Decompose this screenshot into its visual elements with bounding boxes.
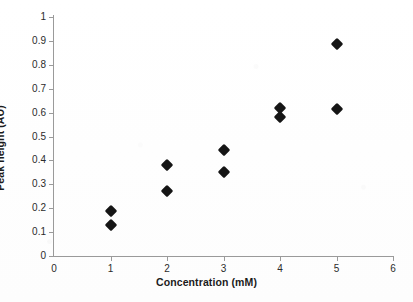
data-point [161, 185, 174, 198]
y-tick-label: 0.5 [32, 132, 46, 142]
x-tick-mark [393, 256, 394, 261]
y-tick-mark [49, 41, 54, 42]
y-tick-mark [49, 89, 54, 90]
data-point [217, 166, 230, 179]
y-tick-label: 0.4 [32, 155, 46, 165]
data-point [161, 159, 174, 172]
x-tick-label: 3 [221, 264, 227, 274]
data-point [330, 38, 343, 51]
x-tick-label: 2 [164, 264, 170, 274]
y-tick-mark [49, 17, 54, 18]
data-point [104, 204, 117, 217]
y-tick-mark [49, 160, 54, 161]
y-tick-label: 0.3 [32, 179, 46, 189]
y-tick-label: 0.6 [32, 108, 46, 118]
x-tick-mark [280, 256, 281, 261]
data-point [274, 111, 287, 124]
x-tick-label: 0 [51, 264, 57, 274]
x-tick-mark [111, 256, 112, 261]
plot-area: 00.10.20.30.40.50.60.70.80.91 0123456 [54, 17, 393, 256]
y-tick-label: 1 [40, 12, 46, 22]
y-tick-label: 0.9 [32, 36, 46, 46]
x-tick-label: 5 [334, 264, 340, 274]
y-tick-mark [49, 113, 54, 114]
x-tick-label: 6 [390, 264, 396, 274]
y-tick-mark [49, 256, 54, 257]
y-axis-line [53, 15, 54, 256]
x-axis-title: Concentration (mM) [0, 276, 413, 288]
y-tick-label: 0.2 [32, 203, 46, 213]
x-tick-label: 4 [277, 264, 283, 274]
scatter-plot-figure: 00.10.20.30.40.50.60.70.80.91 0123456 Co… [0, 0, 413, 302]
y-tick-label: 0 [40, 251, 46, 261]
y-tick-label: 0.7 [32, 84, 46, 94]
y-tick-mark [49, 65, 54, 66]
x-tick-mark [337, 256, 338, 261]
data-point [104, 219, 117, 232]
x-tick-label: 1 [108, 264, 114, 274]
data-point [217, 143, 230, 156]
y-tick-label: 0.1 [32, 227, 46, 237]
data-point [330, 103, 343, 116]
y-tick-mark [49, 208, 54, 209]
y-tick-mark [49, 137, 54, 138]
x-tick-mark [167, 256, 168, 261]
y-tick-mark [49, 232, 54, 233]
y-tick-mark [49, 184, 54, 185]
y-axis-title: Peak height (AU) [0, 78, 6, 218]
y-tick-label: 0.8 [32, 60, 46, 70]
x-tick-mark [224, 256, 225, 261]
